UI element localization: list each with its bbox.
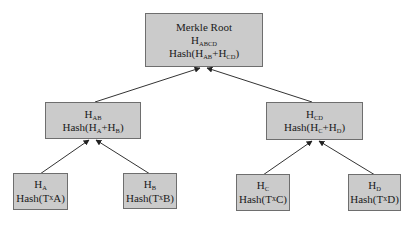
hc-formula: Hash(TxC) — [239, 192, 287, 206]
edge-hc-to-hcd — [263, 141, 312, 175]
hab-formula: Hash(HA+HB) — [62, 121, 123, 134]
node-hc: HC Hash(TxC) — [236, 174, 290, 211]
hcd-symbol: HCD — [306, 108, 323, 121]
node-hd: HD Hash(TxD) — [348, 174, 401, 211]
hcd-formula: Hash(HC+HD) — [284, 121, 345, 134]
hc-symbol: HC — [257, 179, 269, 192]
hd-symbol: HD — [368, 179, 381, 192]
edge-hab-to-root — [95, 68, 200, 102]
node-merkle-root: Merkle Root HABCD Hash(HAB+HCD) — [145, 13, 263, 67]
edge-hb-to-hab — [96, 140, 150, 174]
node-hcd: HCD Hash(HC+HD) — [266, 102, 363, 140]
root-symbol: HABCD — [191, 34, 217, 47]
hab-symbol: HAB — [85, 108, 102, 121]
hb-formula: Hash(TxB) — [126, 191, 174, 205]
root-formula: Hash(HAB+HCD) — [169, 47, 239, 60]
edge-hd-to-hcd — [319, 141, 375, 175]
hb-symbol: HB — [144, 178, 156, 191]
edge-ha-to-hab — [40, 140, 89, 174]
ha-symbol: HA — [34, 178, 47, 191]
hd-formula: Hash(TxD) — [350, 192, 399, 206]
root-title: Merkle Root — [176, 21, 232, 34]
node-hb: HB Hash(TxB) — [123, 173, 177, 209]
edge-hcd-to-root — [207, 68, 312, 102]
ha-formula: Hash(TxA) — [16, 191, 65, 205]
node-hab: HAB Hash(HA+HB) — [45, 102, 141, 139]
node-ha: HA Hash(TxA) — [13, 173, 68, 210]
merkle-tree-diagram: Merkle Root HABCD Hash(HAB+HCD) HAB Hash… — [0, 0, 412, 230]
